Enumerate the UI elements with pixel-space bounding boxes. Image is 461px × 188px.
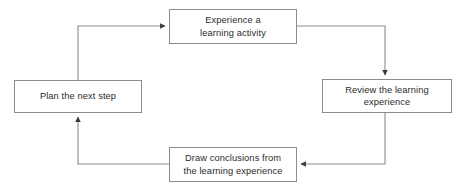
- node-label: Experience a learning activity: [196, 14, 270, 39]
- edge-experience-to-review: [297, 26, 385, 75]
- edge-review-to-conclusions: [301, 113, 385, 164]
- node-draw-conclusions-from-the-learning-experience[interactable]: Draw conclusions from the learning exper…: [169, 147, 297, 182]
- node-experience-a-learning-activity[interactable]: Experience a learning activity: [169, 9, 297, 44]
- node-review-the-learning-experience[interactable]: Review the learning experience: [322, 79, 452, 113]
- node-plan-the-next-step[interactable]: Plan the next step: [14, 80, 142, 113]
- node-label: Draw conclusions from the learning exper…: [180, 152, 287, 177]
- node-label: Review the learning experience: [341, 84, 433, 109]
- node-label: Plan the next step: [36, 90, 120, 103]
- edge-conclusions-to-plan: [78, 117, 169, 164]
- edge-plan-to-experience: [78, 26, 165, 80]
- learning-cycle-diagram: Experience a learning activity Review th…: [0, 0, 461, 188]
